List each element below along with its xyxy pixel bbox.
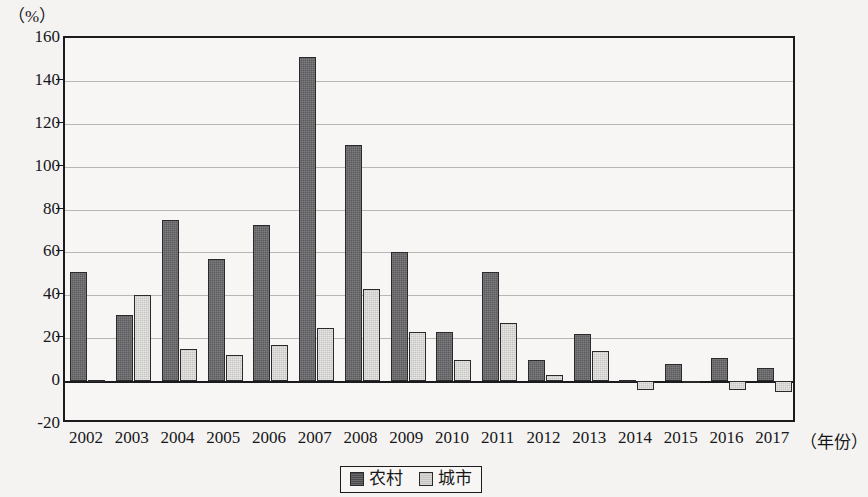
bar-rural-2005 [208,259,225,381]
x-tick-label: 2012 [526,428,560,448]
bar-urban-2012 [546,375,563,381]
x-tick-label: 2005 [206,428,240,448]
x-tick-label: 2003 [115,428,149,448]
bar-rural-2006 [253,225,270,382]
y-tick-label: 100 [0,156,60,173]
bar-rural-2016 [711,358,728,382]
bar-rural-2014 [619,380,636,382]
bar-rural-2012 [528,360,545,381]
rural-swatch-icon [350,472,364,486]
bar-urban-2007 [317,328,334,382]
y-tick-label: 120 [0,113,60,130]
bar-urban-2014 [637,381,654,390]
bar-urban-2003 [134,295,151,381]
bars-layer [65,38,793,420]
y-tick-mark [56,293,64,294]
y-tick-label: 0 [0,371,60,388]
bar-urban-2011 [500,323,517,381]
y-tick-mark [56,208,64,209]
bar-urban-2013 [592,351,609,381]
bar-urban-2006 [271,345,288,381]
x-tick-label: 2016 [709,428,743,448]
y-tick-mark [56,122,64,123]
bar-urban-2017 [775,381,792,392]
x-tick-label: 2013 [572,428,606,448]
x-tick-label: 2011 [481,428,514,448]
y-tick-mark [56,165,64,166]
x-tick-label: 2008 [343,428,377,448]
bar-urban-2002 [88,380,105,382]
y-tick-label: 160 [0,28,60,45]
y-tick-label: 40 [0,285,60,302]
bar-urban-2010 [454,360,471,381]
x-tick-label: 2010 [435,428,469,448]
y-tick-label: -20 [0,414,60,431]
legend-label-rural: 农村 [369,469,403,489]
bar-rural-2007 [299,57,316,381]
bar-urban-2015 [683,381,700,383]
bar-urban-2004 [180,349,197,381]
bar-rural-2009 [391,252,408,381]
y-tick-mark [56,336,64,337]
bar-urban-2008 [363,289,380,381]
x-tick-label: 2002 [69,428,103,448]
bar-urban-2009 [409,332,426,381]
bar-rural-2011 [482,272,499,381]
bar-rural-2008 [345,145,362,381]
x-tick-label: 2004 [160,428,194,448]
y-tick-label: 20 [0,328,60,345]
urban-swatch-icon [419,472,433,486]
y-tick-mark [56,79,64,80]
legend-item-rural: 农村 [350,469,403,489]
bar-rural-2010 [436,332,453,381]
x-tick-label: 2015 [664,428,698,448]
x-tick-label: 2007 [298,428,332,448]
bar-rural-2013 [574,334,591,381]
bar-urban-2016 [729,381,746,390]
bar-rural-2015 [665,364,682,381]
y-tick-label: 60 [0,242,60,259]
x-tick-label: 2014 [618,428,652,448]
plot-area [63,36,795,422]
legend-label-urban: 城市 [438,469,472,489]
bar-chart: （%） 160140120100806040200-20 20022003200… [0,0,868,497]
bar-rural-2004 [162,220,179,381]
y-tick-label: 140 [0,70,60,87]
bar-rural-2003 [116,315,133,381]
x-tick-label: 2017 [755,428,789,448]
legend-item-urban: 城市 [419,469,472,489]
x-tick-label: 2006 [252,428,286,448]
x-tick-label: 2009 [389,428,423,448]
y-tick-label: 80 [0,199,60,216]
y-axis-unit-label: （%） [8,2,56,27]
bar-rural-2017 [757,368,774,381]
chart-legend: 农村 城市 [340,466,482,493]
y-tick-mark [56,250,64,251]
bar-urban-2005 [226,355,243,381]
bar-rural-2002 [70,272,87,381]
x-axis-title: （年份） [800,428,868,453]
